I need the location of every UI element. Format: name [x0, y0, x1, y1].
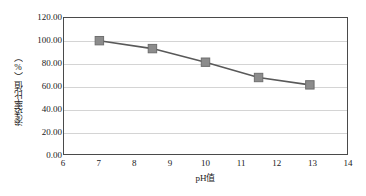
- x-axis-tick-label: 10: [193, 158, 219, 169]
- data-point-marker: [95, 36, 103, 44]
- chart-screenshot: 渗透率比值（%） 0.0020.0040.0060.0080.00100.001…: [0, 0, 366, 196]
- x-axis-tick-label: 6: [50, 158, 76, 169]
- x-axis-tick-label: 14: [335, 158, 361, 169]
- x-axis-title: pH值: [63, 173, 348, 184]
- data-point-marker: [201, 58, 209, 66]
- x-axis-tick-label: 8: [121, 158, 147, 169]
- data-series-layer: [64, 18, 347, 154]
- plot-area: [63, 17, 348, 155]
- data-point-marker: [148, 44, 156, 52]
- x-axis-tick-label: 9: [157, 158, 183, 169]
- y-axis-tick-label: 100.00: [26, 36, 62, 45]
- data-point-marker: [254, 73, 262, 81]
- y-axis-title: 渗透率比值（%）: [11, 36, 25, 144]
- x-axis-tick-labels: 67891011121314: [63, 158, 348, 172]
- x-axis-tick-label: 11: [228, 158, 254, 169]
- y-axis-tick-label: 60.00: [26, 82, 62, 91]
- x-axis-tick-label: 13: [299, 158, 325, 169]
- y-axis-tick-label: 20.00: [26, 128, 62, 137]
- y-axis-tick-label: 40.00: [26, 105, 62, 114]
- x-axis-tick-label: 12: [264, 158, 290, 169]
- data-point-marker: [306, 81, 314, 89]
- y-axis-tick-label: 80.00: [26, 59, 62, 68]
- x-axis-tick-label: 7: [86, 158, 112, 169]
- y-axis-tick-label: 120.00: [26, 13, 62, 22]
